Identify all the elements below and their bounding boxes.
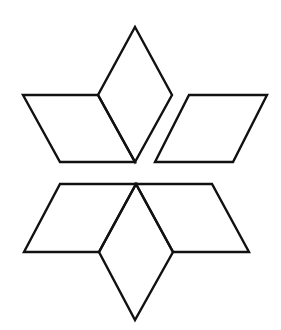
lower-right-rhombus	[136, 184, 249, 252]
rhombus-star-diagram	[0, 0, 281, 330]
upper-center-rhombus	[98, 27, 172, 162]
upper-left-rhombus	[23, 95, 135, 162]
upper-right-rhombus	[155, 95, 267, 162]
lower-center-rhombus	[99, 184, 173, 320]
lower-left-rhombus	[24, 184, 136, 252]
